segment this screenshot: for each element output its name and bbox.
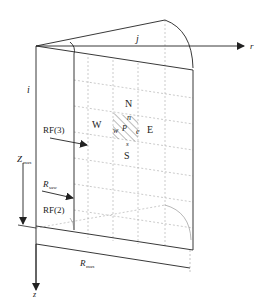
- rf2-label: RF(2): [43, 205, 65, 215]
- rmax-label: R max: [79, 258, 95, 269]
- rf3-arrow: [50, 138, 87, 145]
- zmax-label: Z max: [17, 154, 32, 165]
- j-label: j: [134, 33, 139, 44]
- face-s: s: [126, 140, 129, 148]
- neighbor-w: W: [92, 119, 102, 130]
- face-e: e: [136, 127, 140, 136]
- neighbor-n: N: [125, 98, 132, 109]
- i-label: i: [27, 84, 30, 95]
- svg-text:R: R: [79, 258, 86, 268]
- face-p: P: [121, 124, 127, 133]
- svg-text:max: max: [23, 160, 32, 165]
- neighbor-s: S: [124, 150, 130, 161]
- rf3-label: RF(3): [43, 125, 65, 135]
- svg-text:max: max: [86, 264, 95, 269]
- z-axis-label: z: [32, 290, 37, 298]
- rsaw-label: R saw: [42, 179, 57, 190]
- r-axis-label: r: [250, 41, 254, 51]
- zmax-baseline: [18, 225, 36, 228]
- neighbor-e: E: [147, 124, 153, 135]
- svg-text:R: R: [42, 179, 49, 189]
- svg-text:saw: saw: [49, 185, 57, 190]
- rsaw-arrow: [42, 191, 73, 198]
- face-w: w: [113, 126, 119, 135]
- diagram-canvas: r j i z N W E S n w P e s RF(3) RF(2) Z …: [0, 0, 270, 298]
- face-n: n: [127, 113, 131, 122]
- sector-outline: [36, 20, 193, 285]
